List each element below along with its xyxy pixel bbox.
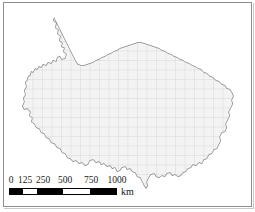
scale-tick-label: 750 (84, 175, 98, 186)
map-figure: 0 125 250 500 750 1000 km (0, 0, 255, 212)
scale-bar-graphic: km (9, 188, 134, 196)
scale-segment (90, 189, 117, 194)
scale-segment (63, 189, 90, 194)
scale-tick-label: 250 (36, 175, 50, 186)
scale-segment (10, 189, 23, 194)
scale-bar-labels: 0 125 250 500 750 1000 (9, 175, 134, 187)
scale-segment (23, 189, 36, 194)
scale-tick-label: 1000 (108, 175, 127, 186)
scale-tick-label: 0 (9, 175, 14, 186)
scale-unit-label: km (121, 186, 134, 197)
scale-segment (37, 189, 64, 194)
scale-tick-label: 500 (58, 175, 72, 186)
scale-bar-segments (9, 188, 117, 195)
scale-tick-label: 125 (18, 175, 32, 186)
scale-bar: 0 125 250 500 750 1000 km (9, 175, 134, 196)
